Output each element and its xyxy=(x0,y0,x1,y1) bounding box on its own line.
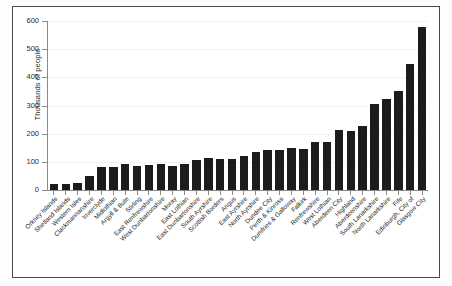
bar-slot xyxy=(274,21,286,190)
bar[interactable] xyxy=(263,150,272,190)
bar-slot xyxy=(48,21,60,190)
bar[interactable] xyxy=(121,164,130,190)
bar[interactable] xyxy=(382,99,391,190)
bar[interactable] xyxy=(252,152,261,190)
y-axis-tick: 500 xyxy=(42,49,47,50)
bar-slot xyxy=(131,21,143,190)
bar[interactable] xyxy=(240,156,249,190)
bar-series xyxy=(48,21,428,190)
bar-slot xyxy=(119,21,131,190)
bar-slot xyxy=(369,21,381,190)
bar[interactable] xyxy=(180,164,189,190)
bar[interactable] xyxy=(50,184,59,190)
y-axis-tick-label: 400 xyxy=(26,72,39,81)
bar[interactable] xyxy=(323,142,332,190)
bar-slot xyxy=(107,21,119,190)
y-axis-tick-label: 600 xyxy=(26,16,39,25)
bar[interactable] xyxy=(347,131,356,190)
bar-slot xyxy=(250,21,262,190)
bar-slot xyxy=(179,21,191,190)
bar[interactable] xyxy=(145,165,154,190)
bar[interactable] xyxy=(97,167,106,190)
chart-figure: Thousands of people 0100200300400500600 … xyxy=(0,0,452,286)
bar-slot xyxy=(357,21,369,190)
bar[interactable] xyxy=(157,164,166,190)
bar[interactable] xyxy=(418,27,427,190)
bar-slot xyxy=(381,21,393,190)
bar-slot xyxy=(416,21,428,190)
axes: 0100200300400500600 xyxy=(47,21,428,190)
bar-slot xyxy=(333,21,345,190)
bar[interactable] xyxy=(168,166,177,191)
x-label-slot: North Lanarkshire xyxy=(381,195,393,275)
plot-area: Thousands of people 0100200300400500600 … xyxy=(0,0,452,286)
y-axis-tick: 0 xyxy=(42,190,47,191)
y-axis-tick-label: 100 xyxy=(26,157,39,166)
bar-slot xyxy=(167,21,179,190)
bar[interactable] xyxy=(228,159,237,190)
bar[interactable] xyxy=(73,183,82,190)
bar[interactable] xyxy=(216,159,225,190)
bar-slot xyxy=(191,21,203,190)
bar-slot xyxy=(72,21,84,190)
bar-slot xyxy=(297,21,309,190)
bar[interactable] xyxy=(370,104,379,190)
bar-slot xyxy=(84,21,96,190)
bar-slot xyxy=(60,21,72,190)
bar-slot xyxy=(404,21,416,190)
bar[interactable] xyxy=(287,148,296,190)
bar-slot xyxy=(309,21,321,190)
bar[interactable] xyxy=(133,166,142,191)
bar[interactable] xyxy=(192,160,201,190)
x-label-slot: Glasgow City xyxy=(416,195,428,275)
bar[interactable] xyxy=(204,158,213,190)
y-axis-tick: 400 xyxy=(42,77,47,78)
bar-slot xyxy=(238,21,250,190)
bar-slot xyxy=(262,21,274,190)
y-axis-tick-label: 0 xyxy=(35,185,39,194)
bar[interactable] xyxy=(358,126,367,190)
y-axis-tick-label: 500 xyxy=(26,44,39,53)
y-axis-tick: 600 xyxy=(42,21,47,22)
bar[interactable] xyxy=(62,184,71,190)
bar-slot xyxy=(392,21,404,190)
y-axis-tick: 100 xyxy=(42,162,47,163)
bar-slot xyxy=(286,21,298,190)
y-axis-tick: 200 xyxy=(42,134,47,135)
y-axis-tick-label: 200 xyxy=(26,129,39,138)
bar[interactable] xyxy=(394,91,403,190)
bar[interactable] xyxy=(275,150,284,190)
x-axis-labels: Orkney IslandsShetland IslandsWestern Is… xyxy=(48,195,428,275)
bar[interactable] xyxy=(299,149,308,190)
bar-slot xyxy=(345,21,357,190)
bar-slot xyxy=(202,21,214,190)
bar-slot xyxy=(214,21,226,190)
bar[interactable] xyxy=(109,167,118,190)
bar[interactable] xyxy=(406,64,415,190)
y-axis-tick-label: 300 xyxy=(26,101,39,110)
bar-slot xyxy=(143,21,155,190)
bar[interactable] xyxy=(311,142,320,190)
bar-slot xyxy=(155,21,167,190)
bar-slot xyxy=(226,21,238,190)
bar-slot xyxy=(96,21,108,190)
bar-slot xyxy=(321,21,333,190)
y-axis-tick: 300 xyxy=(42,106,47,107)
bar[interactable] xyxy=(335,130,344,190)
bar[interactable] xyxy=(85,176,94,190)
